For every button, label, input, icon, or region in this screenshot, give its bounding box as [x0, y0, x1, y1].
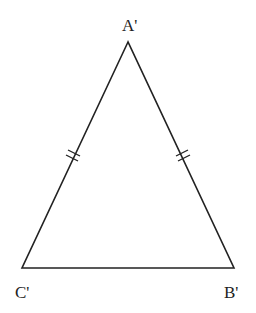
vertex-label-c: C' [15, 283, 29, 302]
triangle-diagram: A' C' B' [0, 0, 256, 313]
vertex-label-a: A' [122, 16, 137, 35]
triangle-a-b-c [22, 42, 234, 268]
vertex-label-b: B' [224, 283, 238, 302]
